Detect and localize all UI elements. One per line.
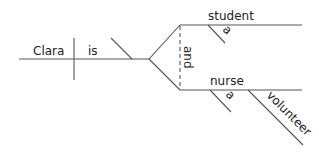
conjunction-word: and (181, 46, 195, 69)
complement-slash (111, 38, 132, 59)
upper-complement-word: student (208, 9, 254, 23)
fork-lower (149, 59, 180, 90)
subject-word: Clara (33, 44, 64, 58)
lower-complement-word: nurse (210, 74, 244, 88)
fork-upper (149, 25, 180, 59)
sentence-diagram: Clara is and student a nurse a volunteer (0, 0, 319, 156)
verb-word: is (88, 44, 98, 58)
